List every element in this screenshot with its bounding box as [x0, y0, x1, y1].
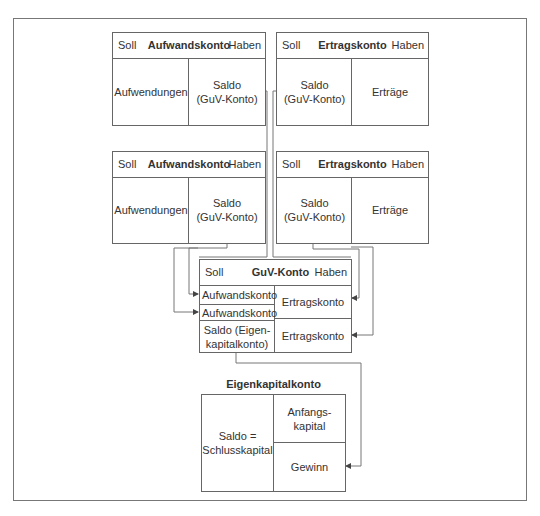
account-aufwandskonto-middle: Soll Aufwandskonto Haben Aufwendungen Sa…: [112, 151, 266, 244]
ek-anfangskapital: Anfangs-kapital: [274, 395, 345, 442]
soll-entry: Saldo(GuV-Konto): [277, 177, 352, 243]
soll-entry: Saldo(GuV-Konto): [277, 58, 352, 125]
guv-haben-row-2: Ertragskonto: [275, 319, 351, 352]
soll-entry: Aufwendungen: [113, 58, 189, 125]
account-header: Soll Ertragskonto Haben: [277, 33, 428, 59]
ek-gewinn: Gewinn: [274, 443, 345, 491]
eigenkapitalkonto-title: Eigenkapitalkonto: [201, 378, 346, 390]
account-ertragskonto-top: Soll Ertragskonto Haben Saldo(GuV-Konto)…: [276, 32, 429, 126]
guv-haben-row-1: Ertragskonto: [275, 285, 351, 318]
haben-entry: Erträge: [352, 177, 428, 243]
account-ertragskonto-middle: Soll Ertragskonto Haben Saldo(GuV-Konto)…: [276, 151, 429, 244]
haben-entry: Saldo(GuV-Konto): [189, 58, 265, 125]
account-header: Soll GuV-Konto Haben: [200, 260, 351, 286]
soll-entry: Aufwendungen: [113, 177, 189, 243]
account-header: Soll Aufwandskonto Haben: [113, 152, 265, 178]
haben-label: Haben: [392, 39, 424, 51]
haben-label: Haben: [229, 39, 261, 51]
guv-soll-row-2: Aufwandskonto: [200, 305, 274, 320]
haben-label: Haben: [315, 266, 347, 278]
account-eigenkapitalkonto: Saldo =Schlusskapital Anfangs-kapital Ge…: [201, 394, 346, 492]
guv-soll-row-1: Aufwandskonto: [200, 285, 274, 304]
account-header: Soll Ertragskonto Haben: [277, 152, 428, 178]
haben-label: Haben: [229, 158, 261, 170]
ek-saldo: Saldo =Schlusskapital: [202, 395, 273, 491]
haben-entry: Saldo(GuV-Konto): [189, 177, 265, 243]
haben-entry: Erträge: [352, 58, 428, 125]
guv-saldo: Saldo (Eigen-kapitalkonto): [200, 321, 274, 352]
account-aufwandskonto-top: Soll Aufwandskonto Haben Aufwendungen Sa…: [112, 32, 266, 126]
account-header: Soll Aufwandskonto Haben: [113, 33, 265, 59]
haben-label: Haben: [392, 158, 424, 170]
account-guv-konto: Soll GuV-Konto Haben Aufwandskonto Aufwa…: [199, 259, 352, 353]
